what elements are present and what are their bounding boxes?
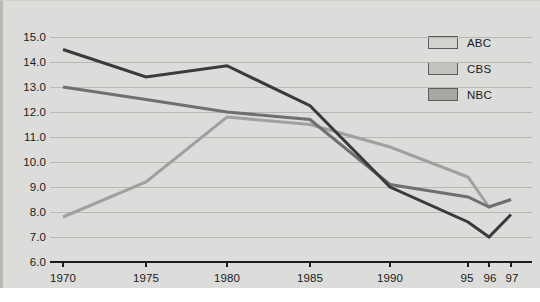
line-chart-figure: 15.0 14.0 13.0 12.0 11.0 10.0 9.0 8.0 7.… xyxy=(0,0,540,302)
series-line-abc xyxy=(63,117,511,217)
gridlines xyxy=(50,37,532,262)
series-line-nbc xyxy=(63,50,511,238)
data-series-group xyxy=(63,50,511,238)
x-axis xyxy=(50,262,532,267)
plot-area xyxy=(0,0,540,302)
